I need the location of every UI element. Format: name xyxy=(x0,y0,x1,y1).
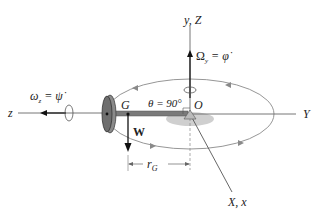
dim-arrow-icon xyxy=(185,162,190,166)
origin-label: O xyxy=(194,99,203,111)
precession-label: Ωy = φ̇ xyxy=(196,50,229,65)
radius-subscript: G xyxy=(152,164,158,173)
orbit-arrow-icon xyxy=(132,85,138,91)
arrow-down-icon xyxy=(125,143,132,152)
gyroscope-diagram xyxy=(0,0,321,222)
phi-dot: = φ̇ xyxy=(208,49,229,63)
Y-axis-label: Y xyxy=(303,108,310,120)
psi-dot: = ψ̇ xyxy=(41,89,63,103)
disk-center xyxy=(106,113,109,116)
spin-label: ωz = ψ̇ xyxy=(30,90,63,105)
arrow-left-icon xyxy=(40,110,47,116)
weight-label: W xyxy=(133,126,145,138)
orbit-arrow-icon xyxy=(150,143,156,149)
dim-arrow-icon xyxy=(128,162,133,166)
y-Z-axis-label: y, Z xyxy=(184,14,201,26)
X-axis-label: X, x xyxy=(228,196,247,208)
theta-label: θ = 90° xyxy=(148,98,182,109)
arrow-up-icon xyxy=(187,50,193,57)
radius-label: rG xyxy=(147,158,157,173)
omega-symbol: Ω xyxy=(196,49,205,63)
z-axis-label: z xyxy=(8,107,13,119)
X-axis xyxy=(190,114,232,192)
G-label: G xyxy=(121,99,130,111)
